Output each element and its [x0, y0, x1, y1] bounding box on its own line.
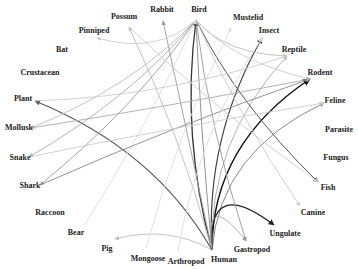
node-label-fish: Fish — [321, 183, 336, 192]
label-layer: BirdMustelidInsectReptileRodentFelinePar… — [5, 5, 353, 266]
node-label-canine: Canine — [301, 208, 326, 217]
node-label-parasite: Parasite — [325, 125, 353, 134]
edge-human-to-reptile — [212, 56, 287, 250]
node-label-ungulate: Ungulate — [269, 229, 301, 238]
node-label-human: Human — [211, 255, 237, 264]
network-diagram: BirdMustelidInsectReptileRodentFelinePar… — [0, 0, 358, 269]
edge-human-to-ungulate — [212, 205, 274, 250]
node-label-gastropod: Gastropod — [234, 245, 271, 254]
node-label-plant: Plant — [14, 94, 33, 103]
edge-bird-to-snake — [29, 20, 196, 157]
edge-layer — [29, 20, 324, 252]
edge-human-to-rabbit — [163, 21, 212, 250]
node-label-rabbit: Rabbit — [150, 5, 174, 14]
node-label-pinniped: Pinniped — [79, 26, 110, 35]
edge-human-to-possum — [129, 27, 212, 250]
edge-human-to-rodent — [212, 79, 310, 250]
node-label-shark: Shark — [20, 181, 41, 190]
node-label-snake: Snake — [10, 153, 31, 162]
node-label-insect: Insect — [259, 26, 280, 35]
edge-human-to-pig — [115, 234, 212, 250]
node-label-crustacean: Crustacean — [20, 68, 60, 77]
node-label-mollusk: Mollusk — [5, 123, 34, 132]
node-label-fungus: Fungus — [323, 153, 348, 162]
chord-graph: BirdMustelidInsectReptileRodentFelinePar… — [0, 0, 358, 269]
node-label-pig: Pig — [101, 244, 112, 253]
node-label-raccoon: Raccoon — [35, 208, 65, 217]
edge-shark-to-rodent — [40, 79, 310, 185]
node-label-reptile: Reptile — [282, 45, 307, 54]
node-label-feline: Feline — [325, 96, 346, 105]
edge-snake-to-feline — [29, 103, 324, 157]
edge-human-to-feline — [212, 103, 324, 250]
node-label-possum: Possum — [111, 12, 138, 21]
node-label-mustelid: Mustelid — [233, 13, 264, 22]
node-label-arthropod: Arthropod — [168, 257, 205, 266]
node-label-bird: Bird — [191, 5, 207, 14]
node-label-bat: Bat — [56, 45, 68, 54]
node-label-rodent: Rodent — [308, 68, 333, 77]
node-label-mongoose: Mongoose — [131, 254, 166, 263]
node-label-bear: Bear — [68, 228, 85, 237]
